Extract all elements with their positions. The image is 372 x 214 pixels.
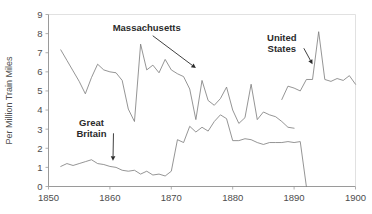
x-tick-label: 1870 [161, 192, 182, 203]
series-line-massachusetts [61, 44, 294, 128]
annotation-arrow-massachusetts [153, 36, 193, 66]
annotation-label-united-states: United [267, 32, 297, 43]
x-axis-ticks: 185018601870188018901900 [38, 187, 366, 203]
annotation-label-united-states-line2: States [268, 43, 297, 54]
y-tick-label: 9 [37, 9, 42, 20]
annotation-label-great-britain: Great [79, 117, 105, 128]
y-tick-label: 3 [37, 124, 42, 135]
y-tick-label: 0 [37, 181, 42, 192]
annotations: MassachusettsUnitedStatesGreatBritain [76, 22, 312, 161]
y-tick-label: 4 [37, 104, 42, 115]
axes [49, 15, 356, 187]
line-chart: 0123456789 185018601870188018901900 Mass… [0, 0, 372, 214]
y-axis-label: Per Million Train Miles [4, 56, 14, 145]
annotation-label-massachusetts: Massachusetts [113, 22, 181, 33]
chart-container: 0123456789 185018601870188018901900 Mass… [0, 0, 372, 214]
x-tick-label: 1900 [345, 192, 366, 203]
x-tick-label: 1850 [38, 192, 59, 203]
y-tick-label: 6 [37, 66, 42, 77]
x-tick-label: 1860 [99, 192, 120, 203]
y-tick-label: 1 [37, 162, 42, 173]
y-axis-ticks: 0123456789 [37, 9, 48, 192]
data-series [61, 32, 356, 187]
annotation-arrow-united-states [304, 48, 311, 60]
y-tick-label: 8 [37, 28, 42, 39]
annotation-arrowhead-great-britain [111, 156, 116, 161]
annotation-label-great-britain-line2: Britain [76, 128, 106, 139]
y-axis-title: Per Million Train Miles [4, 56, 14, 145]
y-tick-label: 5 [37, 85, 42, 96]
y-tick-label: 2 [37, 143, 42, 154]
annotation-arrowhead-massachusetts [191, 63, 196, 68]
y-tick-label: 7 [37, 47, 42, 58]
x-tick-label: 1880 [222, 192, 243, 203]
x-tick-label: 1890 [284, 192, 305, 203]
